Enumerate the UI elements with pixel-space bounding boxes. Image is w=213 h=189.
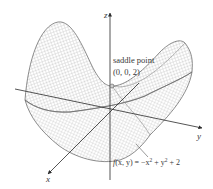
formula-mid: + y <box>152 158 165 167</box>
formula-args: (x, y) = −x <box>115 158 149 167</box>
formula-suffix: + 2 <box>168 158 181 167</box>
y-axis-label: y <box>196 131 201 141</box>
saddle-surface-figure: z y x saddle point (0, 0, 2) f(x, y) = −… <box>0 0 213 189</box>
z-axis-label: z <box>103 10 108 20</box>
formula-leader-line <box>136 144 148 157</box>
saddle-point-label: saddle point <box>113 55 155 65</box>
function-formula: f(x, y) = −x2 + y2 + 2 <box>113 157 180 167</box>
saddle-point-coords: (0, 0, 2) <box>113 67 140 77</box>
saddle-point-marker <box>110 84 114 88</box>
x-axis-label: x <box>45 174 50 184</box>
